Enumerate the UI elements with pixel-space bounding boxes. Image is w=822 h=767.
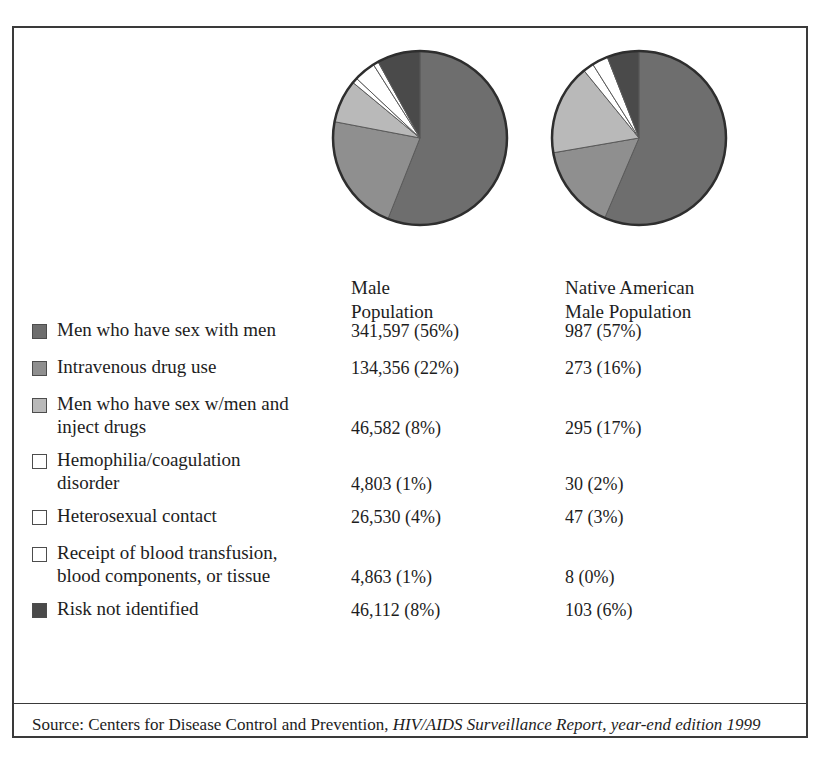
table-row: Men who have sex w/men and inject drugs4… bbox=[14, 392, 806, 448]
data-table: Male Population Native American Male Pop… bbox=[14, 246, 806, 634]
value-native-american-male-population: 103 (6%) bbox=[565, 599, 632, 622]
value-native-american-male-population: 30 (2%) bbox=[565, 473, 623, 496]
table-row: Receipt of blood transfusion, blood comp… bbox=[14, 541, 806, 597]
column-header-native-american-male-population: Native American Male Population bbox=[565, 276, 694, 324]
pie-chart-male-population bbox=[330, 48, 510, 228]
column-headers: Male Population Native American Male Pop… bbox=[14, 246, 806, 318]
value-male-population: 26,530 (4%) bbox=[351, 506, 441, 529]
table-row: Heterosexual contact26,530 (4%)47 (3%) bbox=[14, 504, 806, 541]
figure-frame: Male Population Native American Male Pop… bbox=[12, 26, 808, 738]
legend-color-swatch bbox=[32, 510, 47, 525]
table-row: Men who have sex with men341,597 (56%)98… bbox=[14, 318, 806, 355]
value-male-population: 341,597 (56%) bbox=[351, 320, 459, 343]
legend-color-swatch bbox=[32, 361, 47, 376]
source-publication-title: Surveillance Report, year-end edition 19… bbox=[463, 715, 761, 734]
pie-male-svg bbox=[330, 48, 510, 228]
legend-item-label: Intravenous drug use bbox=[57, 355, 347, 378]
value-male-population: 4,863 (1%) bbox=[351, 566, 432, 589]
legend-and-values-list: Men who have sex with men341,597 (56%)98… bbox=[14, 318, 806, 634]
table-row: Risk not identified46,112 (8%)103 (6%) bbox=[14, 597, 806, 634]
value-male-population: 46,112 (8%) bbox=[351, 599, 440, 622]
value-male-population: 4,803 (1%) bbox=[351, 473, 432, 496]
value-native-american-male-population: 47 (3%) bbox=[565, 506, 623, 529]
value-male-population: 46,582 (8%) bbox=[351, 417, 441, 440]
value-native-american-male-population: 8 (0%) bbox=[565, 566, 614, 589]
pie-native-svg bbox=[549, 48, 729, 228]
value-native-american-male-population: 273 (16%) bbox=[565, 357, 641, 380]
source-divider bbox=[14, 703, 806, 704]
source-note: Source: Centers for Disease Control and … bbox=[32, 714, 761, 736]
pie-chart-native-american-male-population bbox=[549, 48, 729, 228]
source-prefix: Source: Centers for Disease Control and … bbox=[32, 715, 393, 734]
column-header-male-population: Male Population bbox=[351, 276, 433, 324]
legend-item-label: Men who have sex w/men and inject drugs bbox=[57, 392, 347, 438]
legend-color-swatch bbox=[32, 454, 47, 469]
legend-color-swatch bbox=[32, 324, 47, 339]
table-row: Hemophilia/coagulation disorder4,803 (1%… bbox=[14, 448, 806, 504]
legend-item-label: Hemophilia/coagulation disorder bbox=[57, 448, 347, 494]
table-row: Intravenous drug use134,356 (22%)273 (16… bbox=[14, 355, 806, 392]
legend-color-swatch bbox=[32, 603, 47, 618]
legend-item-label: Risk not identified bbox=[57, 597, 347, 620]
pie-chart-row bbox=[14, 28, 806, 246]
legend-color-swatch bbox=[32, 398, 47, 413]
legend-item-label: Receipt of blood transfusion, blood comp… bbox=[57, 541, 347, 587]
legend-item-label: Men who have sex with men bbox=[57, 318, 347, 341]
legend-item-label: Heterosexual contact bbox=[57, 504, 347, 527]
value-native-american-male-population: 295 (17%) bbox=[565, 417, 641, 440]
value-native-american-male-population: 987 (57%) bbox=[565, 320, 641, 343]
legend-color-swatch bbox=[32, 547, 47, 562]
source-publication-abbrev: HIV/AIDS bbox=[393, 715, 463, 734]
value-male-population: 134,356 (22%) bbox=[351, 357, 459, 380]
